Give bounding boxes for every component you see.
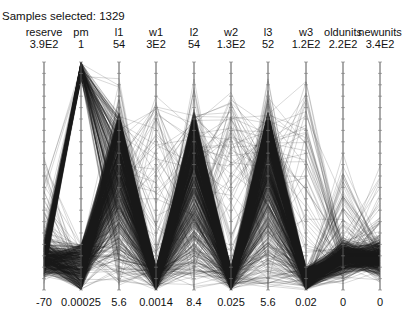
parallel-coordinates-plot[interactable] (0, 0, 420, 322)
polylines (44, 62, 380, 290)
